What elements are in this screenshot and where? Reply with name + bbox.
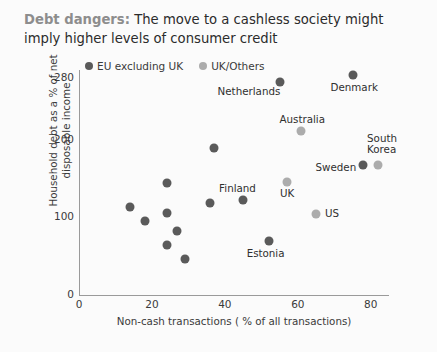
x-axis-line <box>79 295 389 296</box>
chart-title: Debt dangers: The move to a cashless soc… <box>24 10 416 48</box>
data-point-label: Estonia <box>247 248 285 260</box>
data-point[interactable] <box>209 143 218 152</box>
data-point-label: UK <box>280 188 294 200</box>
data-point[interactable] <box>173 227 182 236</box>
data-point-uk[interactable] <box>282 177 291 186</box>
data-point-label: Australia <box>279 114 325 126</box>
data-point-australia[interactable] <box>297 126 306 135</box>
chart-title-lead: Debt dangers: <box>24 12 130 27</box>
data-point-south-korea[interactable] <box>374 160 383 169</box>
data-point-label: US <box>325 208 339 220</box>
data-point[interactable] <box>162 241 171 250</box>
data-point-label: Denmark <box>331 82 378 94</box>
data-point-label: Netherlands <box>218 86 281 98</box>
data-point-label: South Korea <box>367 133 397 156</box>
data-point[interactable] <box>162 179 171 188</box>
legend-swatch-icon <box>85 62 93 70</box>
plot-area: NetherlandsDenmarkSwedenFinlandEstoniaAu… <box>79 70 389 295</box>
data-point-label: Sweden <box>315 162 356 174</box>
data-point-sweden[interactable] <box>359 160 368 169</box>
data-point[interactable] <box>162 208 171 217</box>
y-tick-label: 0 <box>67 288 74 300</box>
x-axis-tick-labels: 020406080 <box>79 298 399 314</box>
x-tick-label: 80 <box>364 298 377 310</box>
data-point-us[interactable] <box>312 209 321 218</box>
x-tick-label: 20 <box>145 298 158 310</box>
data-point[interactable] <box>180 254 189 263</box>
legend-swatch-icon <box>199 62 207 70</box>
data-point-finland[interactable] <box>239 196 248 205</box>
x-tick-label: 60 <box>291 298 304 310</box>
y-axis-title: Household debt as a % of net disposable … <box>47 46 72 216</box>
data-point[interactable] <box>140 216 149 225</box>
y-axis-line <box>79 70 80 295</box>
data-point-denmark[interactable] <box>348 71 357 80</box>
data-point[interactable] <box>206 199 215 208</box>
x-axis-title: Non-cash transactions ( % of all transac… <box>79 315 389 327</box>
data-point[interactable] <box>126 203 135 212</box>
data-point-estonia[interactable] <box>264 236 273 245</box>
x-tick-label: 40 <box>218 298 231 310</box>
x-tick-label: 0 <box>76 298 83 310</box>
data-point-label: Finland <box>219 183 256 195</box>
chart-card: Debt dangers: The move to a cashless soc… <box>0 0 437 352</box>
